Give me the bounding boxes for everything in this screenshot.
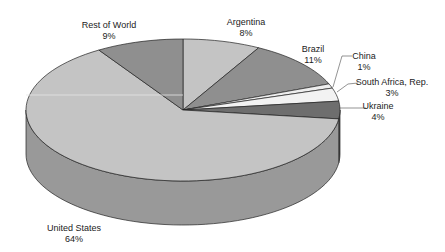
label-argentina: Argentina8%: [227, 17, 266, 39]
label-china: China1%: [352, 51, 376, 73]
label-ukraine: Ukraine4%: [362, 101, 393, 123]
pie-chart: [0, 0, 445, 252]
label-south-africa: South Africa, Rep.3%: [356, 77, 429, 99]
pie-slices: [26, 39, 340, 181]
label-brazil: Brazil11%: [302, 44, 325, 66]
leader-line-china: [333, 56, 352, 87]
label-rest-of-world: Rest of World9%: [82, 20, 136, 42]
label-united-states: United States64%: [47, 223, 101, 245]
